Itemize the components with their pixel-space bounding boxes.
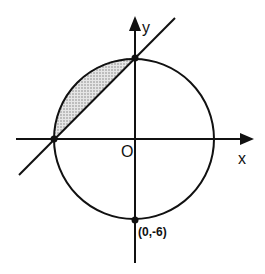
y-axis-label: y	[142, 19, 150, 36]
x-axis-label: x	[238, 150, 246, 167]
y-axis-arrow-icon	[129, 16, 141, 31]
point-top-intersection	[132, 55, 139, 62]
x-axis-arrow-icon	[240, 133, 254, 145]
point-left-intersection	[51, 136, 58, 143]
origin-label: O	[121, 143, 133, 160]
diagram-canvas: y x O (0,-6)	[0, 0, 265, 274]
point-bottom	[132, 217, 139, 224]
bottom-point-label: (0,-6)	[138, 225, 167, 239]
secant-line	[19, 18, 175, 175]
